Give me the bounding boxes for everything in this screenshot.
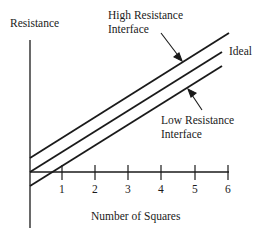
- low-resistance-label-2: Interface: [161, 128, 202, 141]
- x-tick-label: 2: [92, 183, 98, 196]
- x-tick-label: 4: [158, 183, 164, 196]
- x-axis-label: Number of Squares: [91, 210, 180, 223]
- ideal-line: [30, 52, 222, 172]
- high-arrow: [161, 33, 182, 61]
- x-tick-label: 1: [59, 183, 65, 196]
- high-resistance-label-1: High Resistance: [108, 9, 183, 22]
- low-arrow: [188, 89, 202, 110]
- x-tick-label: 3: [125, 183, 131, 196]
- ideal-label: Ideal: [229, 45, 252, 58]
- high-resistance-label-2: Interface: [108, 23, 149, 36]
- y-axis-label: Resistance: [10, 17, 59, 30]
- x-tick-label: 5: [192, 183, 198, 196]
- x-tick-label: 6: [225, 183, 231, 196]
- low-resistance-label-1: Low Resistance: [161, 114, 234, 127]
